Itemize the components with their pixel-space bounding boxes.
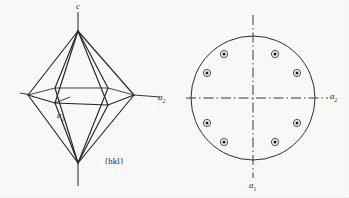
upper-pyramid-edges [28, 31, 134, 105]
pole-8 [271, 138, 278, 145]
label-axis-a1-left: a1 [57, 110, 64, 122]
pole-2 [271, 50, 278, 57]
pole-6 [293, 119, 300, 126]
crystal-habit-drawing [20, 12, 160, 186]
label-axis-a2-right: a2 [330, 91, 337, 103]
equator-rear-edges [28, 88, 134, 95]
equator-front-edges [28, 95, 134, 105]
pole-4 [293, 69, 300, 76]
axis-a1-left [55, 97, 70, 103]
label-form-hkl: {hkl} [104, 156, 124, 166]
crystallography-figure: c a1 a2 {hkl} a2 a1 [0, 0, 349, 198]
figure-canvas [0, 0, 349, 198]
pole-7 [220, 138, 227, 145]
label-axis-a1-right: a1 [249, 180, 256, 192]
pole-5 [203, 119, 210, 126]
axis-a2-left [20, 93, 160, 97]
label-axis-c: c [76, 1, 80, 11]
stereographic-projection [186, 15, 328, 178]
label-axis-a2-left: a2 [158, 92, 165, 104]
pole-3 [203, 69, 210, 76]
pole-1 [220, 50, 227, 57]
